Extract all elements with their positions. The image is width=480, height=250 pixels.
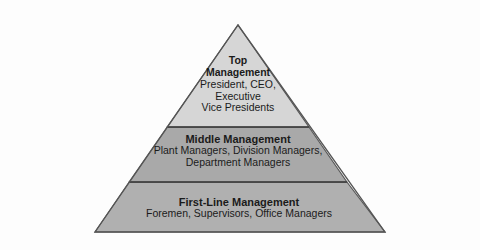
tier-top-polygon — [167, 25, 309, 127]
tier-bottom-polygon — [95, 182, 385, 232]
management-pyramid-diagram: Top Management President, CEO, Executive… — [0, 0, 480, 250]
pyramid-shape-group — [0, 0, 480, 250]
